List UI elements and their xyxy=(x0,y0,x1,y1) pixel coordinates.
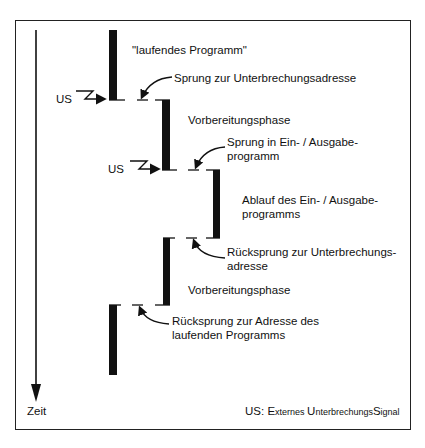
label-preparation-2: Vorbereitungsphase xyxy=(188,283,290,297)
bar-running-program-1 xyxy=(109,30,117,100)
time-axis-label: Zeit xyxy=(27,404,46,418)
label-return-to-program-line1: Rücksprung zur Adresse des xyxy=(172,314,319,328)
label-jump-to-interrupt: Sprung zur Unterbrechungsadresse xyxy=(174,71,356,85)
bar-io-program xyxy=(213,170,220,238)
signal-label-1: US xyxy=(56,92,72,106)
interrupt-signal-icon-2 xyxy=(130,161,158,169)
legend-text: S xyxy=(373,405,381,417)
time-axis xyxy=(31,30,41,402)
pointer-return-program xyxy=(140,308,169,324)
label-io-execution-line1: Ablauf des Ein- / Ausgabe- xyxy=(242,193,378,207)
legend-text: E xyxy=(267,405,275,417)
signal-label-2: US xyxy=(108,162,124,176)
legend-abbr: US: xyxy=(245,405,264,417)
pointer-return-interrupt xyxy=(194,241,225,258)
interrupt-timing-diagram xyxy=(0,0,425,448)
label-return-to-interrupt-line1: Rücksprung zur Unterbrechungs- xyxy=(227,245,396,259)
bar-running-program-2 xyxy=(109,305,117,375)
interrupt-signal-icon-1 xyxy=(76,91,104,99)
pointer-jump-interrupt xyxy=(142,77,172,97)
label-jump-to-io-line2: programm xyxy=(227,149,279,163)
legend: US: Externes UnterbrechungsSignal xyxy=(245,404,400,419)
bar-preparation-2 xyxy=(163,238,170,305)
label-running-program: "laufendes Programm" xyxy=(132,43,247,57)
legend-text: nterbrechungs xyxy=(315,407,373,417)
label-io-execution-line2: programms xyxy=(242,207,300,221)
label-jump-to-io-line1: Sprung in Ein- / Ausgabe- xyxy=(227,135,358,149)
label-preparation-1: Vorbereitungsphase xyxy=(188,113,290,127)
pointer-jump-io xyxy=(196,147,225,167)
legend-text: xternes xyxy=(275,407,307,417)
time-arrow-icon xyxy=(31,384,41,402)
label-return-to-interrupt-line2: adresse xyxy=(227,259,268,273)
bar-preparation-1 xyxy=(162,100,170,170)
legend-text: ignal xyxy=(381,407,400,417)
label-return-to-program-line2: laufenden Programms xyxy=(172,328,285,342)
